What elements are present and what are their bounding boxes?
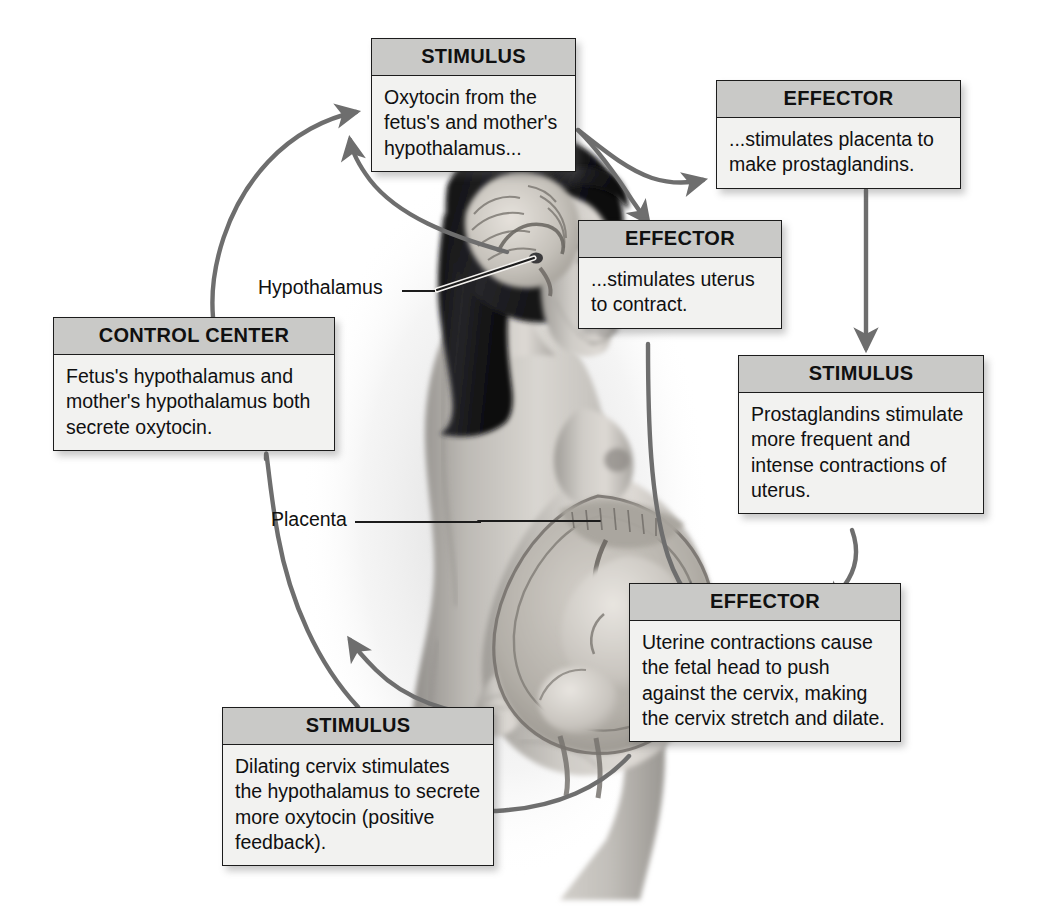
node-header: EFFECTOR: [630, 584, 900, 621]
arrow-effector-uterus-to-effector-cervix: [648, 344, 694, 604]
node-effector-placenta[interactable]: EFFECTOR ...stimulates placenta to make …: [716, 80, 961, 189]
node-stimulus-prostaglandins[interactable]: STIMULUS Prostaglandins stimulate more f…: [738, 355, 984, 514]
node-header: STIMULUS: [739, 356, 983, 393]
node-body: ...stimulates placenta to make prostagla…: [717, 118, 960, 188]
arrow-stimulus-oxytocin-to-effector-placenta: [578, 130, 703, 183]
node-effector-cervix[interactable]: EFFECTOR Uterine contractions cause the …: [629, 583, 901, 742]
node-header: EFFECTOR: [717, 81, 960, 118]
node-body: Fetus's hypothalamus and mother's hypoth…: [54, 355, 334, 450]
connector-effector-cervix-to-stimulus-cervix: [494, 756, 629, 811]
node-body: Oxytocin from the fetus's and mother's h…: [372, 76, 575, 171]
node-body: Prostaglandins stimulate more frequent a…: [739, 393, 983, 513]
arrow-stimulus-oxytocin-to-effector-uterus: [578, 130, 648, 222]
node-header: EFFECTOR: [579, 221, 781, 258]
node-header: STIMULUS: [223, 708, 493, 745]
node-body: ...stimulates uterus to contract.: [579, 258, 781, 328]
node-body: Uterine contractions cause the fetal hea…: [630, 621, 900, 741]
callout-leader-placenta: [355, 521, 481, 523]
arrow-placenta-to-control-center-loop: [350, 640, 492, 716]
callout-label-placenta: Placenta: [271, 508, 347, 531]
node-control-center[interactable]: CONTROL CENTER Fetus's hypothalamus and …: [53, 317, 335, 451]
connector-stimulus-cervix-to-control-center: [266, 453, 358, 707]
node-stimulus-cervix[interactable]: STIMULUS Dilating cervix stimulates the …: [222, 707, 494, 866]
callout-leader-hypothalamus: [402, 290, 435, 292]
node-effector-uterus[interactable]: EFFECTOR ...stimulates uterus to contrac…: [578, 220, 782, 329]
node-stimulus-oxytocin[interactable]: STIMULUS Oxytocin from the fetus's and m…: [371, 38, 576, 172]
node-header: STIMULUS: [372, 39, 575, 76]
callout-label-hypothalamus: Hypothalamus: [258, 276, 383, 299]
diagram-canvas: STIMULUS Oxytocin from the fetus's and m…: [0, 0, 1047, 909]
node-body: Dilating cervix stimulates the hypothala…: [223, 745, 493, 865]
node-header: CONTROL CENTER: [54, 318, 334, 355]
